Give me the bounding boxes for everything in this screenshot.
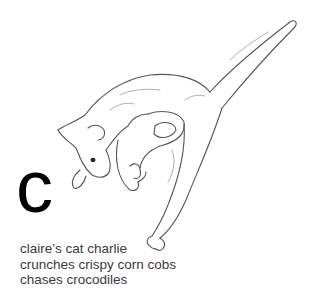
caption-line: claire’s cat charlie bbox=[20, 241, 176, 257]
alphabet-letter: c bbox=[16, 150, 53, 224]
caption-line: chases crocodiles bbox=[20, 272, 176, 288]
caption: claire’s cat charlie crunches crispy cor… bbox=[20, 241, 176, 288]
caption-line: crunches crispy corn cobs bbox=[20, 257, 176, 273]
alphabet-card: c claire’s cat charlie crunches crispy c… bbox=[0, 0, 313, 298]
